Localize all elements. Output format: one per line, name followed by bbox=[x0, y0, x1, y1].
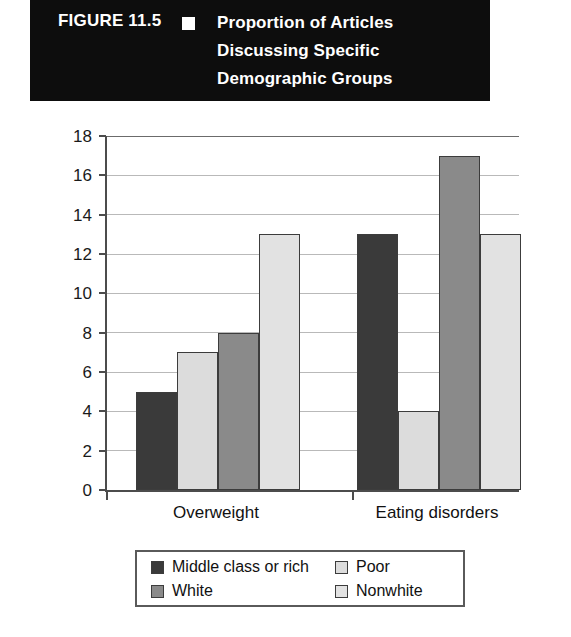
y-tick-label: 8 bbox=[32, 325, 92, 342]
y-tick-label: 2 bbox=[32, 443, 92, 460]
bar bbox=[480, 234, 521, 490]
y-tick-label: 4 bbox=[32, 403, 92, 420]
bar bbox=[177, 352, 218, 490]
legend-label: Poor bbox=[356, 559, 390, 575]
y-tick-label: 10 bbox=[32, 285, 92, 302]
legend-item: Poor bbox=[335, 559, 390, 575]
x-category-label: Eating disorders bbox=[327, 503, 547, 523]
legend-swatch-icon bbox=[335, 561, 348, 574]
legend-item: Middle class or rich bbox=[151, 559, 309, 575]
y-tick-label: 12 bbox=[32, 246, 92, 263]
legend-swatch-icon bbox=[151, 561, 164, 574]
bar bbox=[218, 333, 259, 490]
bar bbox=[259, 234, 300, 490]
legend-label: Nonwhite bbox=[356, 583, 423, 599]
bar bbox=[357, 234, 398, 490]
bar bbox=[398, 411, 439, 490]
x-tick-mark bbox=[352, 491, 354, 500]
y-tick-label: 0 bbox=[32, 482, 92, 499]
x-tick-mark bbox=[106, 491, 108, 500]
y-tick-label: 14 bbox=[32, 207, 92, 224]
plot-area bbox=[105, 136, 519, 492]
bar bbox=[439, 156, 480, 490]
legend-item: White bbox=[151, 583, 213, 599]
bar bbox=[136, 392, 177, 490]
legend-label: White bbox=[172, 583, 213, 599]
x-category-label: Overweight bbox=[106, 503, 326, 523]
legend-swatch-icon bbox=[335, 585, 348, 598]
gridline bbox=[107, 136, 519, 137]
y-tick-label: 18 bbox=[32, 128, 92, 145]
legend-swatch-icon bbox=[151, 585, 164, 598]
legend-item: Nonwhite bbox=[335, 583, 423, 599]
y-tick-label: 16 bbox=[32, 167, 92, 184]
chart-legend: Middle class or richPoorWhiteNonwhite bbox=[135, 550, 465, 607]
legend-label: Middle class or rich bbox=[172, 559, 309, 575]
bar-chart: Percent 024681012141618 OverweightEating… bbox=[0, 0, 571, 637]
y-tick-label: 6 bbox=[32, 364, 92, 381]
